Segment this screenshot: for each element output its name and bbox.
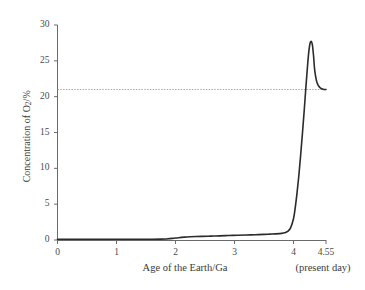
y-tick-label: 30: [28, 20, 50, 30]
y-axis-title: Concentration of O2/%: [21, 51, 34, 221]
x-tick-label: 3: [220, 248, 250, 258]
data-series-line: [58, 41, 327, 239]
data-series-group: [58, 41, 327, 239]
x-tick-label: 2: [161, 248, 191, 258]
y-tick-label: 0: [28, 235, 50, 245]
x-tick-label: 0: [43, 248, 73, 258]
x-axis-title: Age of the Earth/Ga: [110, 262, 260, 273]
oxygen-concentration-chart: 051015202530 012344.55 Concentration of …: [0, 0, 365, 290]
x-tick-label: 1: [102, 248, 132, 258]
y-tick-marks: [54, 25, 58, 240]
x-tick-label: 4.55: [311, 248, 341, 258]
x-tick-label: 4: [279, 248, 309, 258]
present-day-annotation: (present day): [281, 262, 365, 273]
